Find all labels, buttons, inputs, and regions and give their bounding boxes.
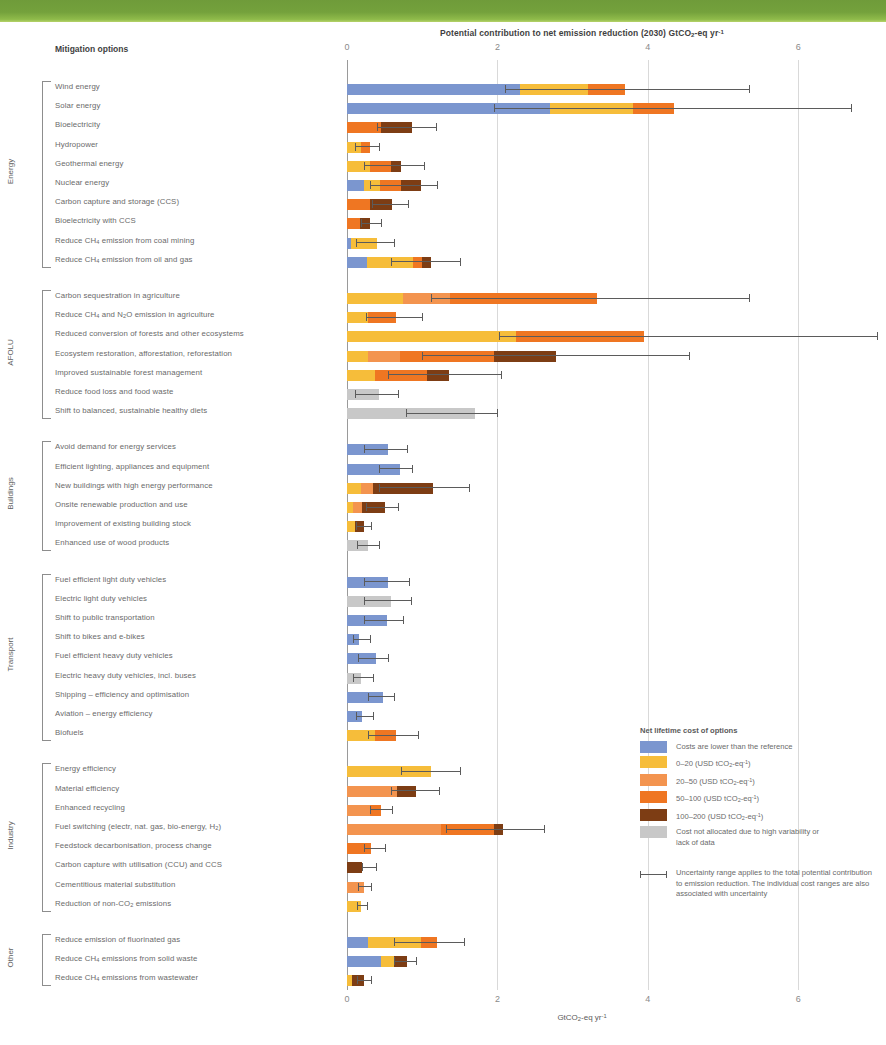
chart-row: Fuel efficient heavy duty vehicles <box>0 649 886 668</box>
legend-color-swatch <box>640 809 667 821</box>
group-label-afolu: AFOLU <box>6 322 15 382</box>
bar-segment-50-100 <box>370 161 391 172</box>
stacked-bar <box>347 577 388 588</box>
uncertainty-range-bar <box>372 204 408 205</box>
uncertainty-cap-low <box>361 219 362 227</box>
uncertainty-range-bar <box>494 108 851 109</box>
uncertainty-range-bar <box>366 317 422 318</box>
chart-row: Reduce CH4 and N2O emission in agricultu… <box>0 308 886 327</box>
chart-row: Wind energy <box>0 80 886 99</box>
uncertainty-cap-high <box>388 654 389 662</box>
stacked-bar <box>347 956 407 967</box>
uncertainty-legend-text: Uncertainty range applies to the total p… <box>676 868 880 900</box>
uncertainty-cap-low <box>394 957 395 965</box>
bar-segment-20-50 <box>361 483 374 494</box>
uncertainty-cap-high <box>376 863 377 871</box>
uncertainty-cap-high <box>501 371 502 379</box>
legend-item-label: 50–100 (USD tCO2-eq-1) <box>676 791 759 806</box>
uncertainty-range-bar <box>364 581 409 582</box>
legend-item-label: Cost not allocated due to high variabili… <box>676 826 826 848</box>
bar-segment-20-50 <box>368 351 400 362</box>
chart-row: Reduced conversion of forests and other … <box>0 327 886 346</box>
x-axis-tick-top-6: 6 <box>796 42 801 52</box>
uncertainty-range-bar <box>379 487 469 488</box>
stacked-bar <box>347 408 475 419</box>
uncertainty-cap-low <box>446 825 447 833</box>
bar-segment-50-100 <box>450 293 597 304</box>
uncertainty-cap-high <box>373 674 374 682</box>
uncertainty-range-bar <box>505 89 749 90</box>
legend-item-label: 0–20 (USD tCO2-eq-1) <box>676 756 751 771</box>
legend-item: 0–20 (USD tCO2-eq-1) <box>640 756 880 771</box>
mitigation-option-label: Electric heavy duty vehicles, incl. buse… <box>55 671 196 680</box>
uncertainty-cap-low <box>364 578 365 586</box>
uncertainty-cap-high <box>460 258 461 266</box>
uncertainty-cap-high <box>422 313 423 321</box>
bar-segment-50-100 <box>375 370 428 381</box>
uncertainty-cap-low <box>499 332 500 340</box>
mitigation-option-label: Ecosystem restoration, afforestation, re… <box>55 349 232 358</box>
chart-row: Avoid demand for energy services <box>0 440 886 459</box>
uncertainty-range-bar <box>364 165 424 166</box>
bar-segment-50-100 <box>413 257 422 268</box>
bar-segment-lower_than_reference <box>347 577 388 588</box>
uncertainty-cap-low <box>356 522 357 530</box>
mitigation-option-label: Reduce CH4 and N2O emission in agricultu… <box>55 310 215 319</box>
bar-segment-0-20 <box>347 370 375 381</box>
bar-segment-lower_than_reference <box>347 692 383 703</box>
mitigation-option-label: Carbon capture and storage (CCS) <box>55 197 179 206</box>
chart-row: Bioelectricity <box>0 118 886 137</box>
bar-segment-100-200 <box>370 199 393 210</box>
bar-segment-0-20 <box>347 483 361 494</box>
legend-color-swatch <box>640 826 667 838</box>
uncertainty-range-bar <box>353 639 370 640</box>
stacked-bar <box>347 843 371 854</box>
mitigation-option-label: Enhanced use of wood products <box>55 538 169 547</box>
bar-segment-0-20 <box>520 84 588 95</box>
mitigation-option-label: Bioelectricity with CCS <box>55 216 136 225</box>
stacked-bar <box>347 312 396 323</box>
uncertainty-range-bar <box>366 507 398 508</box>
mitigation-option-label: Cementitious material substitution <box>55 880 175 889</box>
chart-legend: Net lifetime cost of options Costs are l… <box>640 726 880 900</box>
uncertainty-cap-low <box>388 371 389 379</box>
uncertainty-range-bar <box>499 336 877 337</box>
bar-segment-100-200 <box>397 786 416 797</box>
bar-segment-20-50 <box>403 293 450 304</box>
uncertainty-cap-low <box>353 635 354 643</box>
uncertainty-range-bar <box>364 848 385 849</box>
uncertainty-cap-high <box>394 239 395 247</box>
stacked-bar <box>347 730 396 741</box>
bar-segment-lower_than_reference <box>347 84 520 95</box>
bar-segment-not_allocated <box>347 389 379 400</box>
uncertainty-cap-low <box>394 938 395 946</box>
stacked-bar <box>347 389 379 400</box>
uncertainty-range-icon <box>640 869 667 881</box>
uncertainty-cap-low <box>391 787 392 795</box>
bar-segment-50-100 <box>400 351 494 362</box>
bar-segment-50-100 <box>588 84 626 95</box>
uncertainty-range-bar <box>446 829 544 830</box>
mitigation-option-label: Aviation – energy efficiency <box>55 709 152 718</box>
mitigation-option-label: Geothermal energy <box>55 159 123 168</box>
bar-segment-0-20 <box>347 351 368 362</box>
uncertainty-cap-low <box>362 863 363 871</box>
uncertainty-range-bar <box>401 771 460 772</box>
mitigation-option-label: Nuclear energy <box>55 178 109 187</box>
stacked-bar <box>347 161 401 172</box>
uncertainty-range-bar <box>362 867 376 868</box>
mitigation-option-label: Shift to balanced, sustainable healthy d… <box>55 406 207 415</box>
mitigation-option-label: Material efficiency <box>55 784 119 793</box>
uncertainty-cap-high <box>544 825 545 833</box>
stacked-bar <box>347 786 416 797</box>
stacked-bar <box>347 199 392 210</box>
stacked-bar <box>347 596 391 607</box>
uncertainty-cap-high <box>392 806 393 814</box>
group-label-transport: Transport <box>6 625 15 685</box>
chart-row: Ecosystem restoration, afforestation, re… <box>0 347 886 366</box>
bar-segment-100-200 <box>494 351 556 362</box>
bar-segment-50-100 <box>368 312 396 323</box>
uncertainty-cap-low <box>364 445 365 453</box>
uncertainty-cap-high <box>379 143 380 151</box>
bar-segment-100-200 <box>373 483 433 494</box>
